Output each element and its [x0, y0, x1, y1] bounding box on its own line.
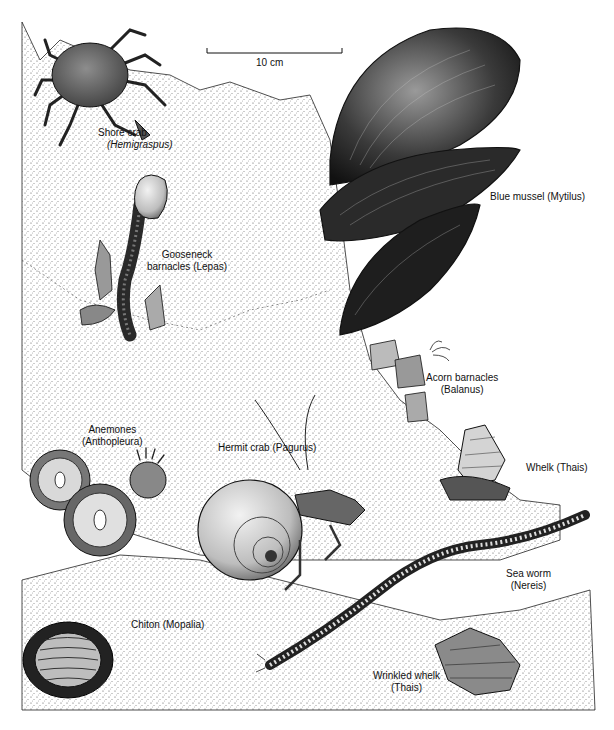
label-whelk: Whelk (Thais) [526, 462, 588, 474]
label-anemones-genus: (Anthopleura) [82, 436, 143, 448]
label-chiton: Chiton (Mopalia) [131, 619, 204, 631]
scale-bar [207, 48, 342, 53]
label-sea-worm-common: Sea worm [506, 568, 551, 580]
label-wrinkled-whelk: Wrinkled whelk (Thais) [373, 670, 440, 694]
label-sea-worm-genus: (Nereis) [506, 580, 551, 592]
label-hermit-crab: Hermit crab (Pagurus) [218, 442, 316, 454]
label-anemones-common: Anemones [82, 424, 143, 436]
label-wrinkled-whelk-common: Wrinkled whelk [373, 670, 440, 682]
label-gooseneck-common: Gooseneck [147, 249, 227, 261]
label-acorn-genus: (Balanus) [426, 384, 498, 396]
label-gooseneck-barnacles: Gooseneck barnacles (Lepas) [147, 249, 227, 273]
label-shore-crab: Shore crab (Hemigraspus) [98, 127, 173, 151]
label-acorn-barnacles: Acorn barnacles (Balanus) [426, 372, 498, 396]
intertidal-illustration: 10 cm Shore crab (Hemigraspus) Gooseneck… [0, 0, 614, 730]
label-acorn-common: Acorn barnacles [426, 372, 498, 384]
label-anemones: Anemones (Anthopleura) [82, 424, 143, 448]
label-sea-worm: Sea worm (Nereis) [506, 568, 551, 592]
label-gooseneck-genus: barnacles (Lepas) [147, 261, 227, 273]
illustration-artwork [0, 0, 614, 730]
label-wrinkled-whelk-genus: (Thais) [373, 682, 440, 694]
label-shore-crab-genus: (Hemigraspus) [98, 139, 173, 151]
label-blue-mussel: Blue mussel (Mytilus) [490, 191, 585, 203]
label-shore-crab-common: Shore crab [98, 127, 173, 139]
scale-bar-label: 10 cm [256, 57, 283, 68]
chiton-drawing [23, 622, 113, 698]
